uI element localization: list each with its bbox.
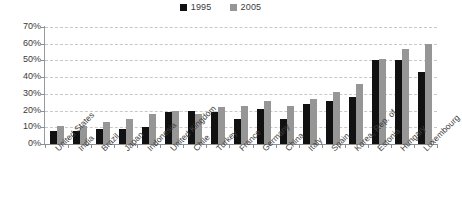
y-axis-tick-label: 50% bbox=[23, 54, 41, 64]
legend-label-2005: 2005 bbox=[241, 2, 262, 12]
bar-1995-spain bbox=[326, 101, 333, 144]
chart-legend: 1995 2005 bbox=[0, 2, 441, 12]
bar-group bbox=[345, 27, 368, 144]
square-marker-icon bbox=[180, 4, 187, 11]
y-axis-tick-label: 10% bbox=[23, 121, 41, 131]
bar-group bbox=[253, 27, 276, 144]
bar-group bbox=[91, 27, 114, 144]
bar-group bbox=[206, 27, 229, 144]
y-axis-labels: 0%10%20%30%40%50%60%70% bbox=[0, 27, 41, 144]
legend-item-1995: 1995 bbox=[180, 2, 212, 12]
bar-group bbox=[229, 27, 252, 144]
legend-item-2005: 2005 bbox=[230, 2, 262, 12]
bar-group bbox=[137, 27, 160, 144]
legend-label-1995: 1995 bbox=[191, 2, 212, 12]
x-axis-category-labels: United StatesIndiaBrazilJapanIndonesiaUn… bbox=[0, 146, 441, 209]
square-marker-icon bbox=[230, 4, 237, 11]
bar-group bbox=[322, 27, 345, 144]
bar-1995-turkey bbox=[211, 112, 218, 144]
y-axis-tick-label: 40% bbox=[23, 71, 41, 81]
bar-group bbox=[114, 27, 137, 144]
bar-group bbox=[299, 27, 322, 144]
bar-2005-hungary bbox=[402, 49, 409, 144]
y-axis-tick-label: 60% bbox=[23, 38, 41, 48]
y-axis-tick-label: 20% bbox=[23, 105, 41, 115]
y-axis-tick-label: 30% bbox=[23, 88, 41, 98]
y-axis-tick-label: 70% bbox=[23, 21, 41, 31]
bar-group bbox=[45, 27, 68, 144]
